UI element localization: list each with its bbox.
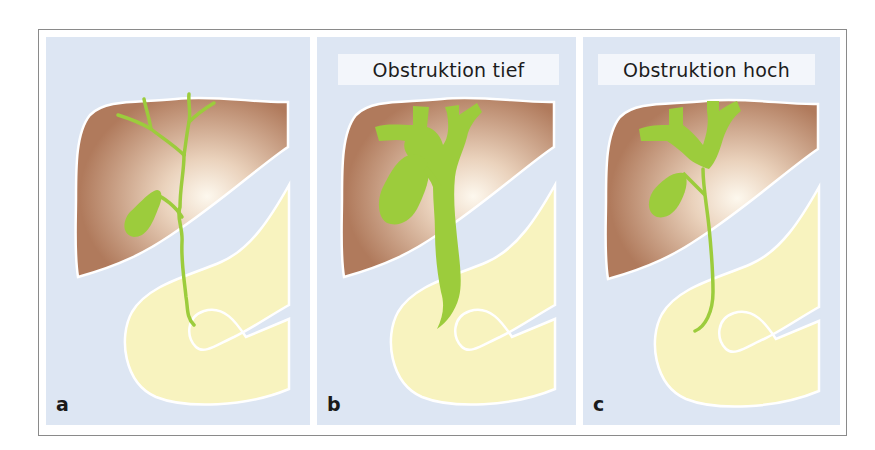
panel-c-illustration: [583, 37, 840, 425]
panel-a-normal: a: [46, 37, 310, 425]
panel-c-title: Obstruktion hoch: [598, 54, 815, 85]
panel-b-illustration: [317, 37, 576, 425]
panel-b-low-obstruction: Obstruktion tief b: [317, 37, 576, 425]
panel-letter-a: a: [56, 393, 69, 415]
panel-letter-c: c: [593, 393, 604, 415]
panel-letter-b: b: [327, 393, 341, 415]
panel-b-title: Obstruktion tief: [338, 54, 559, 85]
panel-a-illustration: [46, 37, 310, 425]
panel-c-high-obstruction: Obstruktion hoch c: [583, 37, 840, 425]
